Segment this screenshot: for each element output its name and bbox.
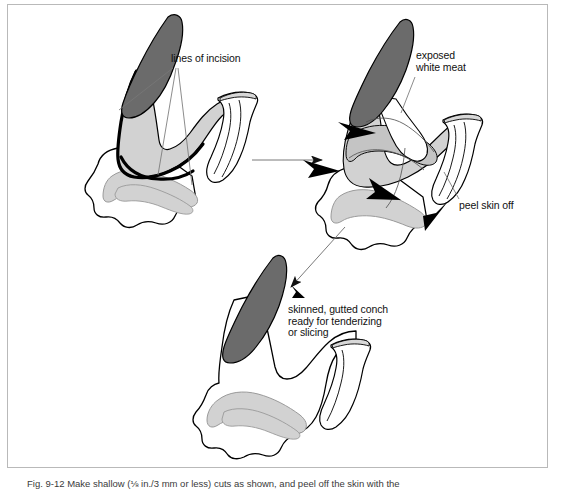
panel2-peel-arrow-bottom-right <box>423 200 449 231</box>
conch-illustration <box>0 0 561 490</box>
label-skinned-gutted-conch: skinned, gutted conch ready for tenderiz… <box>288 304 388 339</box>
figure-page: lines of incision exposed white meat pee… <box>0 0 561 490</box>
figure-caption: Fig. 9-12 Make shallow (⅛ in./3 mm or le… <box>27 478 561 490</box>
panel-1-conch-with-incision-lines <box>85 15 258 228</box>
label-lines-of-incision: lines of incision <box>171 53 241 65</box>
panel2-leader-exposed-white-meat <box>401 77 415 113</box>
panel-3-conch-skinned-gutted <box>193 256 371 459</box>
panel2-spire-right <box>432 114 483 204</box>
panel3-label-arrow <box>291 285 305 298</box>
panel1-operculum-dark <box>122 15 183 118</box>
label-peel-skin-off: peel skin off <box>459 200 514 212</box>
arrow-panel2-to-panel3 <box>291 227 345 287</box>
label-exposed-white-meat: exposed white meat <box>416 50 466 73</box>
